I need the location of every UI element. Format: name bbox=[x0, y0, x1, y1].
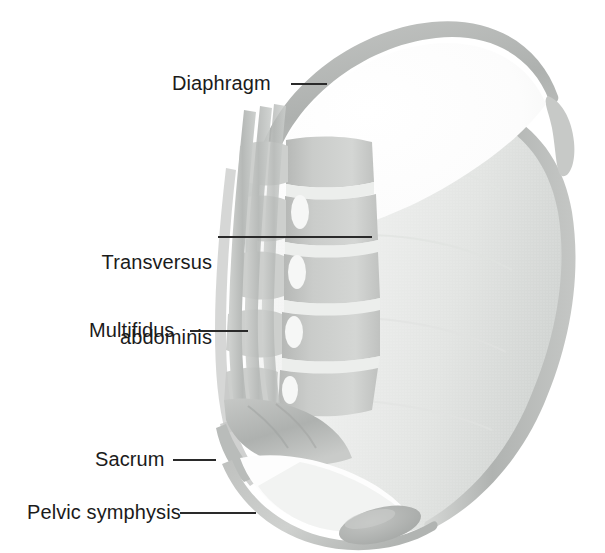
anatomy-illustration bbox=[0, 0, 605, 553]
label-diaphragm: Diaphragm bbox=[172, 71, 271, 96]
vertebra-notch-2 bbox=[288, 255, 306, 289]
label-transversus-abdominis-line-1: Transversus bbox=[96, 250, 212, 275]
label-multifidus: Multifidus bbox=[89, 318, 174, 343]
label-pelvic-symphysis: Pelvic symphysis bbox=[27, 500, 181, 525]
label-transversus-abdominis: Transversus abdominis bbox=[96, 200, 212, 400]
vertebra-notch-3 bbox=[285, 316, 303, 348]
label-sacrum: Sacrum bbox=[95, 447, 165, 472]
vertebra-notch-4 bbox=[282, 376, 298, 404]
vertebra-notch-1 bbox=[291, 195, 309, 229]
vertebra-body-1 bbox=[286, 136, 374, 187]
anatomical-figure: Diaphragm Transversus abdominis Multifid… bbox=[0, 0, 605, 553]
